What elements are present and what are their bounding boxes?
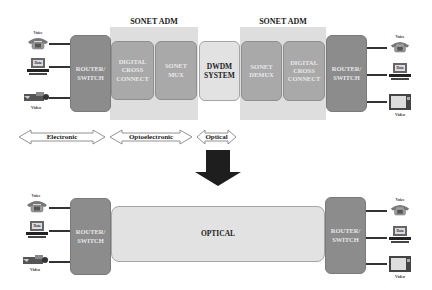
bottom-left-router-switch: ROUTER/SWITCH bbox=[70, 198, 111, 275]
video-connection bbox=[366, 263, 387, 265]
data-label: Data bbox=[25, 224, 49, 228]
video-label: Video bbox=[23, 267, 47, 272]
sonet-mux: SONETMUX bbox=[155, 41, 197, 100]
video-connection bbox=[49, 261, 70, 263]
optical-label: Optical bbox=[196, 129, 237, 145]
television-icon bbox=[389, 94, 411, 110]
right-router-switch: ROUTER/SWITCH bbox=[326, 35, 367, 112]
video-label: Video bbox=[388, 274, 412, 279]
data-label: Data bbox=[388, 66, 412, 70]
video-connection bbox=[49, 97, 70, 99]
voice-label: Voice bbox=[388, 197, 412, 202]
bottom-right-router-switch: ROUTER/SWITCH bbox=[325, 197, 366, 274]
optoelectronic-label: Optoelectronic bbox=[109, 129, 193, 145]
data-label: Data bbox=[388, 229, 412, 233]
optical-network: OPTICAL bbox=[111, 206, 325, 262]
telephone-icon bbox=[25, 199, 49, 213]
left-sonet-adm-title: SONET ADM bbox=[110, 17, 198, 26]
data-connection bbox=[366, 237, 387, 239]
video-label: Video bbox=[388, 112, 412, 117]
telephone-icon bbox=[389, 203, 411, 216]
voice-connection bbox=[49, 207, 70, 209]
left-digital-cross-connect: DIGITALCROSSCONNECT bbox=[111, 41, 154, 100]
telephone-icon bbox=[26, 36, 50, 50]
sonet-demux: SONETDEMUX bbox=[241, 41, 282, 101]
voice-connection bbox=[367, 47, 387, 49]
voice-label: Voice bbox=[26, 30, 50, 35]
voice-label: Voice bbox=[388, 34, 412, 39]
data-connection bbox=[49, 230, 70, 232]
video-connection bbox=[367, 101, 387, 103]
data-connection bbox=[367, 74, 387, 76]
voice-connection bbox=[49, 43, 70, 45]
voice-connection bbox=[366, 210, 387, 212]
video-label: Video bbox=[24, 105, 48, 110]
right-sonet-adm-title: SONET ADM bbox=[240, 17, 326, 26]
camcorder-icon bbox=[21, 254, 49, 266]
down-arrow-icon bbox=[193, 150, 243, 187]
data-label: Data bbox=[26, 61, 50, 65]
voice-label: Voice bbox=[24, 193, 48, 198]
television-icon bbox=[389, 256, 411, 272]
dwdm-system: DWDMSYSTEM bbox=[199, 41, 240, 101]
camcorder-icon bbox=[22, 91, 50, 103]
data-connection bbox=[49, 66, 70, 68]
electronic-label: Electronic bbox=[18, 129, 106, 145]
left-router-switch: ROUTER/SWITCH bbox=[70, 35, 111, 112]
right-digital-cross-connect: DIGITALCROSSCONNECT bbox=[283, 41, 325, 101]
telephone-icon bbox=[389, 40, 411, 53]
